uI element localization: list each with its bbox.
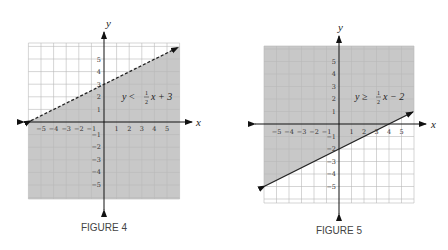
svg-text:4: 4 xyxy=(332,70,336,78)
svg-text:−3: −3 xyxy=(297,128,307,136)
figure-4-caption: FIGURE 4 xyxy=(81,222,128,233)
svg-text:5: 5 xyxy=(399,128,403,136)
figure-5-graph: −5 −4 −3 −2 −1 1 2 3 4 5 1 2 3 4 5 −1 −2… xyxy=(255,21,436,214)
svg-text:5: 5 xyxy=(332,58,336,66)
svg-text:x + 3: x + 3 xyxy=(150,91,172,102)
svg-text:3: 3 xyxy=(97,81,101,89)
x-axis-label: x xyxy=(195,116,201,128)
svg-text:−4: −4 xyxy=(326,170,336,178)
svg-text:1: 1 xyxy=(145,90,148,96)
svg-text:3: 3 xyxy=(374,128,378,136)
y-axis-label: y xyxy=(105,17,111,29)
svg-text:1: 1 xyxy=(349,128,353,136)
svg-text:−5: −5 xyxy=(91,181,101,189)
x-axis-label: x xyxy=(430,118,436,130)
svg-text:−5: −5 xyxy=(272,128,282,136)
figure-4-graph: −5 −4 −3 −2 −1 1 2 3 4 5 1 2 3 4 5 −1 −2… xyxy=(24,17,201,210)
svg-text:−4: −4 xyxy=(284,128,294,136)
svg-text:−2: −2 xyxy=(309,128,319,136)
svg-text:1: 1 xyxy=(377,90,380,96)
svg-text:2: 2 xyxy=(145,99,148,105)
figure-5-caption: FIGURE 5 xyxy=(316,225,363,236)
graphs-canvas: −5 −4 −3 −2 −1 1 2 3 4 5 1 2 3 4 5 −1 −2… xyxy=(0,0,448,250)
svg-text:−4: −4 xyxy=(49,125,59,133)
svg-text:2: 2 xyxy=(97,93,101,101)
svg-text:2: 2 xyxy=(332,95,336,103)
svg-text:−1: −1 xyxy=(91,131,101,139)
y-axis-label: y xyxy=(337,21,343,33)
svg-text:y ≥: y ≥ xyxy=(354,91,368,102)
svg-text:−3: −3 xyxy=(326,158,336,166)
svg-text:1: 1 xyxy=(115,125,119,133)
svg-text:4: 4 xyxy=(152,125,156,133)
svg-text:2: 2 xyxy=(127,125,131,133)
svg-text:−2: −2 xyxy=(326,145,336,153)
svg-text:1: 1 xyxy=(332,108,336,116)
svg-text:−1: −1 xyxy=(326,133,336,141)
svg-text:−5: −5 xyxy=(36,125,46,133)
svg-text:5: 5 xyxy=(165,125,169,133)
svg-text:5: 5 xyxy=(97,56,101,64)
svg-text:−3: −3 xyxy=(61,125,71,133)
svg-text:1: 1 xyxy=(97,106,101,114)
svg-text:−3: −3 xyxy=(91,156,101,164)
svg-text:4: 4 xyxy=(387,128,391,136)
svg-text:3: 3 xyxy=(332,83,336,91)
svg-text:−5: −5 xyxy=(326,183,336,191)
svg-text:2: 2 xyxy=(362,128,366,136)
svg-text:−4: −4 xyxy=(91,168,101,176)
svg-text:−2: −2 xyxy=(91,143,101,151)
svg-text:4: 4 xyxy=(97,68,101,76)
svg-text:y <: y < xyxy=(121,91,135,102)
svg-text:x − 2: x − 2 xyxy=(382,91,404,102)
svg-text:3: 3 xyxy=(140,125,144,133)
svg-text:−2: −2 xyxy=(74,125,84,133)
svg-text:2: 2 xyxy=(377,99,380,105)
